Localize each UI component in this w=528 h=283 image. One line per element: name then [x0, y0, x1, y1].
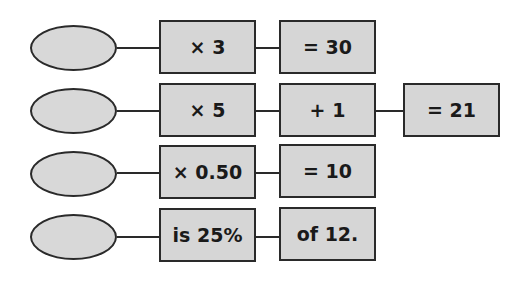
connector [117, 172, 159, 174]
connector [117, 236, 159, 238]
op-box-row4-2: of 12. [279, 207, 376, 261]
op-box-row3-1: × 0.50 [159, 145, 256, 199]
connector [256, 47, 279, 49]
connector [376, 110, 403, 112]
op-box-row2-2: + 1 [279, 83, 376, 137]
op-box-row2-1: × 5 [159, 83, 256, 137]
blank-oval-row3[interactable] [30, 151, 117, 197]
op-box-row2-3: = 21 [403, 83, 500, 137]
connector [256, 236, 279, 238]
op-box-row3-2: = 10 [279, 144, 376, 198]
connector [256, 172, 279, 174]
blank-oval-row4[interactable] [30, 214, 117, 260]
op-box-row1-2: = 30 [279, 20, 376, 74]
connector [256, 110, 279, 112]
connector [117, 47, 159, 49]
op-box-row4-1: is 25% [159, 208, 256, 262]
blank-oval-row1[interactable] [30, 25, 117, 71]
connector [117, 110, 159, 112]
blank-oval-row2[interactable] [30, 88, 117, 134]
op-box-row1-1: × 3 [159, 20, 256, 74]
